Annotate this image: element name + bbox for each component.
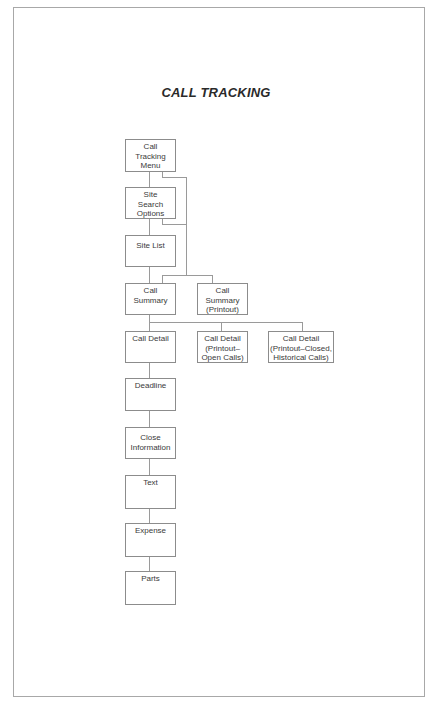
connector-bus-to-summary-printout: [212, 275, 213, 283]
connector-menu-bypass-horizontal: [162, 177, 187, 178]
node-close-information: Close Information: [125, 427, 176, 459]
node-call-tracking-menu: Call Tracking Menu: [125, 139, 176, 172]
node-call-detail-printout-open: Call Detail (Printout– Open Calls): [197, 331, 248, 363]
node-call-summary-printout: Call Summary (Printout): [197, 283, 248, 315]
connector-site-list-to-call-summary: [149, 266, 150, 283]
connector-menu-to-site-search: [149, 171, 150, 188]
connector-site-search-to-site-list: [149, 218, 150, 235]
connector-text-to-expense: [149, 508, 150, 523]
connector-bus-to-detail-open: [221, 322, 222, 331]
node-call-detail: Call Detail: [125, 331, 176, 363]
node-call-summary: Call Summary: [125, 283, 176, 315]
connector-deadline-to-close-information: [149, 410, 150, 427]
node-text: Text: [125, 475, 176, 509]
node-site-list: Site List: [125, 235, 176, 267]
diagram-title: CALL TRACKING: [0, 85, 432, 100]
connector-bus-to-detail-closed: [302, 322, 303, 331]
connector-bypass-vertical: [186, 177, 187, 275]
node-expense: Expense: [125, 523, 176, 557]
connector-close-information-to-text: [149, 458, 150, 475]
node-call-detail-printout-closed: Call Detail (Printout–Closed, Historical…: [268, 331, 334, 363]
connector-expense-to-parts: [149, 556, 150, 571]
node-site-search-options: Site Search Options: [125, 187, 176, 219]
connector-call-detail-to-deadline: [149, 362, 150, 378]
connector-detail-bus: [149, 322, 303, 323]
connector-site-search-bypass-horizontal: [162, 224, 187, 225]
connector-bus-to-call-summary: [162, 275, 163, 283]
node-parts: Parts: [125, 571, 176, 605]
node-deadline: Deadline: [125, 378, 176, 411]
connector-summary-bus: [162, 275, 213, 276]
